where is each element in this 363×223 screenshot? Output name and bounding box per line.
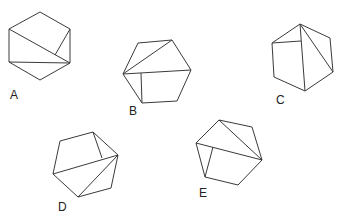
hexagon-label: B	[129, 104, 137, 118]
hexagon-figure: A B C D E	[0, 0, 363, 223]
internal-lines	[9, 29, 70, 63]
hexagon-label: A	[10, 88, 18, 102]
internal-line	[9, 29, 70, 63]
internal-lines	[53, 132, 118, 197]
internal-line	[205, 147, 213, 177]
internal-line	[9, 62, 70, 63]
hexagon-E: E	[196, 120, 262, 200]
internal-lines	[272, 24, 333, 91]
internal-line	[55, 29, 70, 55]
hexagon-label: C	[276, 93, 285, 107]
internal-line	[123, 40, 172, 74]
hexagon-A: A	[9, 12, 70, 102]
hexagon-label: D	[58, 200, 67, 214]
internal-line	[196, 143, 262, 160]
internal-line	[272, 41, 301, 43]
internal-line	[53, 155, 118, 174]
internal-line	[141, 73, 142, 103]
hexagon-D: D	[53, 132, 118, 214]
internal-line	[300, 24, 305, 91]
hexagon-C: C	[272, 24, 333, 107]
hexagon-label: E	[199, 186, 207, 200]
internal-line	[123, 70, 191, 74]
hexagon-B: B	[123, 40, 191, 118]
